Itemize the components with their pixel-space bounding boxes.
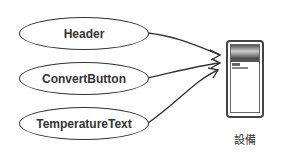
screen-header-image [231,45,259,59]
convert-button-component-node: ConvertButton [19,62,149,95]
phone-icon [226,40,264,118]
temperature-text-component-node: TemperatureText [19,107,149,140]
device-label: 設備 [234,131,256,147]
header-component-node: Header [19,17,149,50]
convert-button-label: ConvertButton [42,72,126,86]
screen-button [232,63,240,66]
screen-text [232,67,248,69]
screen-bar [231,59,259,62]
header-label: Header [64,27,105,41]
temperature-text-label: TemperatureText [36,117,132,131]
phone-screen [230,44,260,113]
